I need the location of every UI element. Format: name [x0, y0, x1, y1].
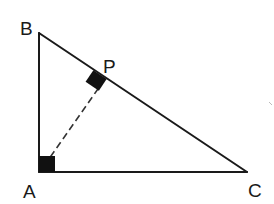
label-a: A: [23, 181, 36, 202]
label-c: C: [248, 180, 262, 201]
side-bc-hypotenuse: [39, 33, 247, 172]
label-b: B: [20, 18, 33, 39]
right-angle-marker-a: [39, 156, 55, 172]
triangle-diagram: B A C P: [0, 0, 274, 204]
stray-mark: [269, 102, 272, 105]
label-p: P: [103, 56, 116, 77]
altitude-ap: [44, 86, 100, 166]
